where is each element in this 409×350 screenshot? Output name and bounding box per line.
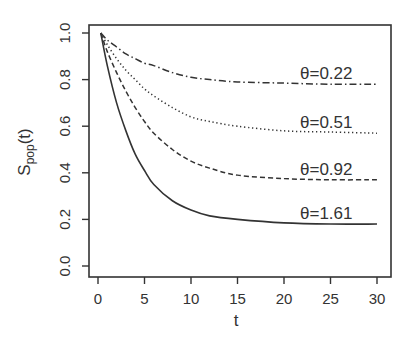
y-tick-label: 1.0 — [56, 23, 73, 44]
x-tick-label: 5 — [140, 290, 148, 307]
x-tick-label: 25 — [322, 290, 339, 307]
curve-labels: θ=0.22θ=0.51θ=0.92θ=1.61 — [300, 64, 352, 223]
y-axis: 0.00.20.40.60.81.0 — [56, 23, 89, 277]
curve-label: θ=0.51 — [300, 113, 352, 132]
x-tick-label: 20 — [276, 290, 293, 307]
y-axis-label-suffix: (t) — [15, 128, 34, 144]
curve-label: θ=1.61 — [300, 204, 352, 223]
y-axis-label: Spop(t) — [15, 128, 37, 175]
curve-label: θ=0.22 — [300, 64, 352, 83]
y-tick-label: 0.0 — [56, 256, 73, 277]
survival-chart: 0.00.20.40.60.81.0 051015202530 θ=0.22θ=… — [0, 0, 409, 350]
x-tick-label: 30 — [369, 290, 386, 307]
x-tick-label: 10 — [183, 290, 200, 307]
curve-dashed — [101, 33, 377, 180]
y-axis-label-subscript: pop — [23, 144, 37, 164]
curve-label: θ=0.92 — [300, 160, 352, 179]
x-tick-label: 0 — [94, 290, 102, 307]
y-tick-label: 0.4 — [56, 162, 73, 183]
y-tick-label: 0.8 — [56, 69, 73, 90]
y-axis-label-main: S — [15, 164, 34, 175]
y-tick-label: 0.2 — [56, 209, 73, 230]
y-tick-label: 0.6 — [56, 116, 73, 137]
x-axis: 051015202530 — [94, 277, 386, 307]
x-tick-label: 15 — [229, 290, 246, 307]
x-axis-label: t — [234, 311, 239, 330]
